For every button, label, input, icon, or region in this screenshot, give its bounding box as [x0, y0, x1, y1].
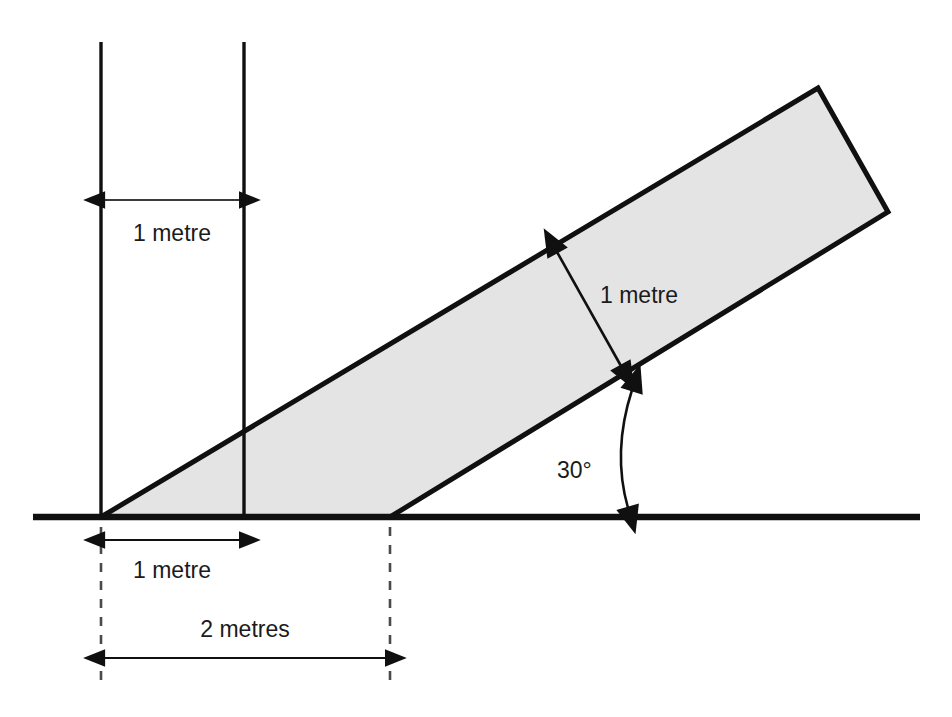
slab-thickness-label: 1 metre — [600, 282, 678, 308]
incline-angle-label: 30° — [557, 457, 592, 483]
geometry-diagram-canvas: 1 metre 1 metre 30° 1 metre 2 metres — [0, 0, 952, 717]
incline-angle-arc — [621, 390, 632, 508]
inclined-slab — [101, 88, 888, 517]
base-offset-label: 1 metre — [133, 557, 211, 583]
top-width-label: 1 metre — [133, 220, 211, 246]
slab-geometry-drawing: 1 metre 1 metre 30° 1 metre 2 metres — [0, 0, 952, 717]
base-span-label: 2 metres — [200, 616, 289, 642]
